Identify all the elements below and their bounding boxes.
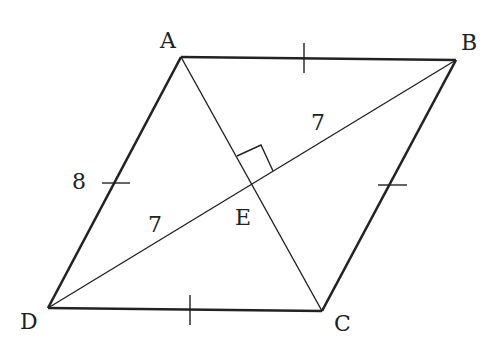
label-a: A (159, 28, 177, 53)
label-e: E (235, 205, 251, 230)
label-c: C (334, 311, 351, 336)
label-segment-be: 7 (311, 110, 325, 135)
label-d: D (20, 309, 38, 334)
rhombus-diagram: A B C D E 8 7 7 (0, 0, 499, 346)
side-ab (181, 57, 456, 60)
label-side-ad: 8 (72, 169, 86, 194)
label-segment-de: 7 (148, 212, 162, 237)
side-cd (48, 308, 322, 311)
diagonal-bd (48, 60, 456, 308)
label-b: B (461, 30, 477, 55)
